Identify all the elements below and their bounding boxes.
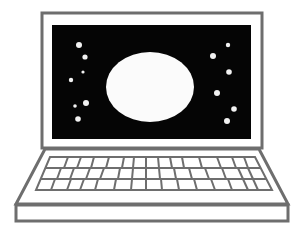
moon-icon [106,52,194,122]
star-icon [226,43,230,47]
star-icon [73,104,77,108]
star-icon [69,78,73,82]
star-icon [82,54,87,59]
laptop-illustration: laptop [0,0,303,236]
star-icon [210,53,216,59]
star-icon [226,69,232,75]
star-icon [76,42,82,48]
base-front-edge [16,205,288,221]
laptop-lid [42,13,262,148]
laptop-base [16,149,288,221]
star-icon [231,106,237,112]
star-icon [224,118,230,124]
star-icon [214,90,220,96]
star-icon [83,100,89,106]
star-icon [75,116,81,122]
laptop-svg [0,0,303,236]
star-icon [81,70,84,73]
